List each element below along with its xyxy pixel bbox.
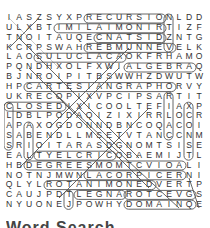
grid-letter: O	[34, 200, 44, 210]
puzzle-title-partial: Word Search	[6, 219, 206, 228]
grid-letter: J	[64, 200, 74, 210]
grid-letter: Y	[14, 200, 24, 210]
grid-letter: U	[24, 200, 34, 210]
grid-letter: D	[124, 200, 134, 210]
grid-letter: Y	[114, 200, 124, 210]
grid-letter: Q	[184, 200, 194, 210]
grid-letter: N	[44, 200, 54, 210]
letter-grid: IASZSYXPRECURSIONLDDULXBTIMILAIMONIRTIZF…	[4, 13, 204, 210]
grid-letter: A	[154, 200, 164, 210]
grid-letter: W	[94, 200, 104, 210]
grid-letter: P	[74, 200, 84, 210]
footer-text: Word Search	[6, 220, 115, 228]
grid-letter: O	[134, 200, 144, 210]
grid-letter: I	[164, 200, 174, 210]
grid-letter: E	[194, 200, 204, 210]
grid-letter: H	[104, 200, 114, 210]
grid-letter: N	[4, 200, 14, 210]
word-search-puzzle: IASZSYXPRECURSIONLDDULXBTIMILAIMONIRTIZF…	[4, 13, 208, 211]
grid-letter: N	[174, 200, 184, 210]
grid-letter: E	[54, 200, 64, 210]
grid-letter: M	[144, 200, 154, 210]
grid-letter: O	[84, 200, 94, 210]
